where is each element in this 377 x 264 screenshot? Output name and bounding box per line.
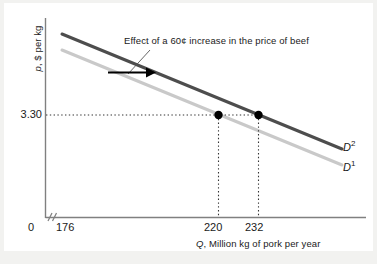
curve-label-d1-letter: D — [343, 161, 351, 173]
y-tick-label-330: 3.30 — [12, 108, 42, 120]
origin-label: 0 — [28, 221, 34, 233]
shift-annotation-text: Effect of a 60¢ increase in the price of… — [124, 35, 309, 46]
x-axis-label: Q, Million kg of pork per year — [196, 238, 320, 249]
x-tick-label-176: 176 — [56, 221, 74, 233]
data-point-marker-220 — [214, 111, 222, 119]
curve-label-d2-letter: D — [343, 141, 351, 153]
curve-label-d2: D2 — [343, 139, 355, 153]
demand-curve-d2 — [62, 34, 342, 149]
data-point-marker-232 — [254, 111, 262, 119]
x-tick-label-232: 232 — [245, 221, 263, 233]
y-axis-label: p, $ per kg — [32, 4, 43, 94]
curve-label-d2-superscript: 2 — [351, 139, 355, 148]
demand-curve-d1 — [62, 50, 342, 165]
curve-label-d1-superscript: 1 — [351, 159, 355, 168]
curve-label-d1: D1 — [343, 159, 355, 173]
x-tick-label-220: 220 — [204, 221, 222, 233]
